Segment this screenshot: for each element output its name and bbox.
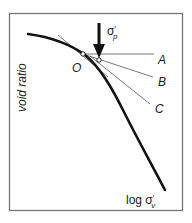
line-c-extension <box>90 56 150 104</box>
point-o-label: O <box>72 61 81 75</box>
line-b-bisector <box>83 54 153 77</box>
casagrande-diagram: σ′p O A B C void ratio log σ′v <box>0 0 192 223</box>
line-c-label: C <box>155 102 164 116</box>
stress-label: σ′p <box>107 24 118 41</box>
preconsolidation-arrow-head <box>93 44 105 58</box>
point-sigma-p-marker <box>97 58 101 62</box>
y-axis-label: void ratio <box>15 63 29 112</box>
x-axis-label: log σ′v <box>126 193 156 210</box>
line-b-label: B <box>158 75 166 89</box>
point-o-marker <box>81 52 85 56</box>
compression-curve <box>28 34 165 190</box>
line-a-label: A <box>157 53 166 67</box>
